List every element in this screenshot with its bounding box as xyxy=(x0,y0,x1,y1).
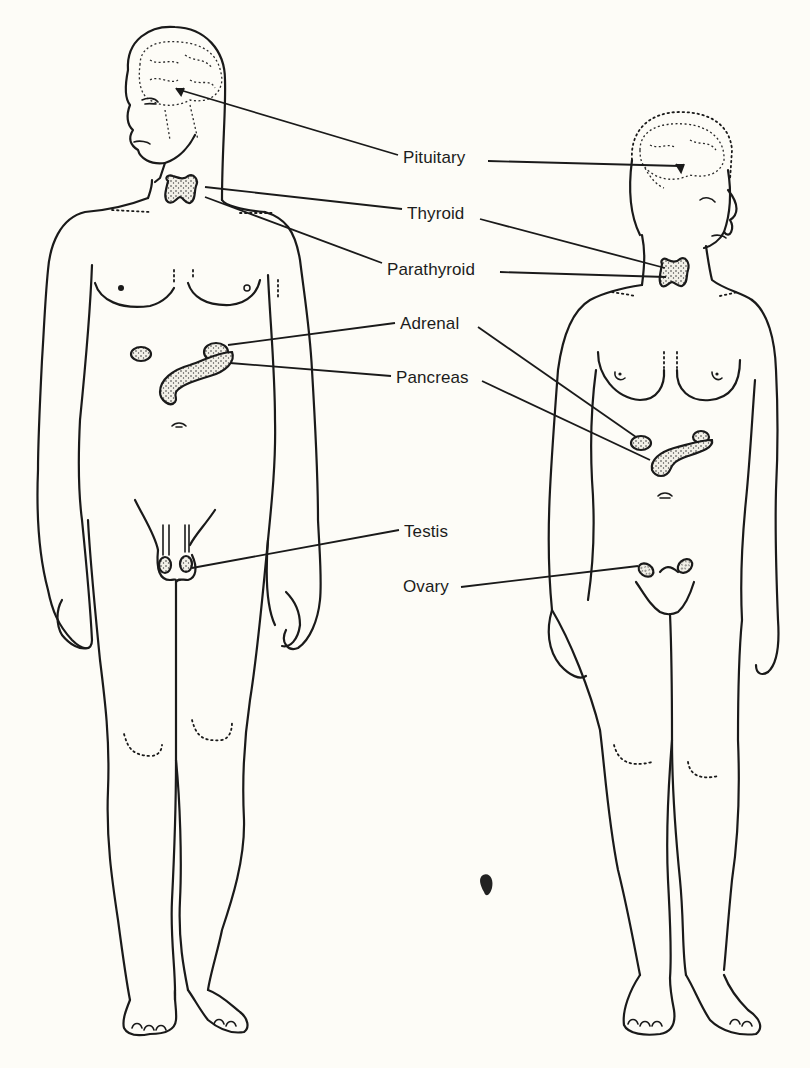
label-pituitary: Pituitary xyxy=(403,148,465,168)
leader-testis-male xyxy=(192,530,399,568)
leader-parathyroid-male xyxy=(205,197,382,263)
label-thyroid: Thyroid xyxy=(407,204,464,224)
leader-pancreas-male xyxy=(230,363,391,376)
male-figure xyxy=(37,27,320,1035)
female-legs-outline xyxy=(552,610,640,975)
label-pancreas: Pancreas xyxy=(396,368,469,388)
male-testis-left xyxy=(159,557,171,573)
male-adrenal xyxy=(131,347,151,361)
female-ovary-left xyxy=(636,560,656,579)
male-pancreas xyxy=(160,352,233,404)
leader-thyroid-male xyxy=(205,187,402,209)
label-adrenal: Adrenal xyxy=(400,314,459,334)
female-brain xyxy=(640,124,724,188)
male-head-outline xyxy=(126,27,225,200)
female-thyroid xyxy=(660,258,689,286)
male-thyroid xyxy=(165,175,197,203)
leader-adrenal-male xyxy=(228,323,395,345)
label-parathyroid: Parathyroid xyxy=(387,260,475,280)
leader-pituitary-male xyxy=(180,90,398,155)
ink-blot xyxy=(480,874,492,895)
female-feet xyxy=(624,975,760,1035)
male-legs-outline xyxy=(88,520,130,1000)
leader-adrenal-female xyxy=(478,327,636,437)
male-testis-right xyxy=(180,556,192,572)
female-torso-outline xyxy=(549,285,642,610)
leader-parathyroid-female xyxy=(500,272,666,277)
female-pancreas xyxy=(652,440,712,476)
label-ovary: Ovary xyxy=(403,577,449,597)
leader-pancreas-female xyxy=(482,381,650,460)
female-adrenal xyxy=(631,436,651,450)
label-testis: Testis xyxy=(404,522,448,542)
leader-pituitary-female xyxy=(488,161,680,166)
